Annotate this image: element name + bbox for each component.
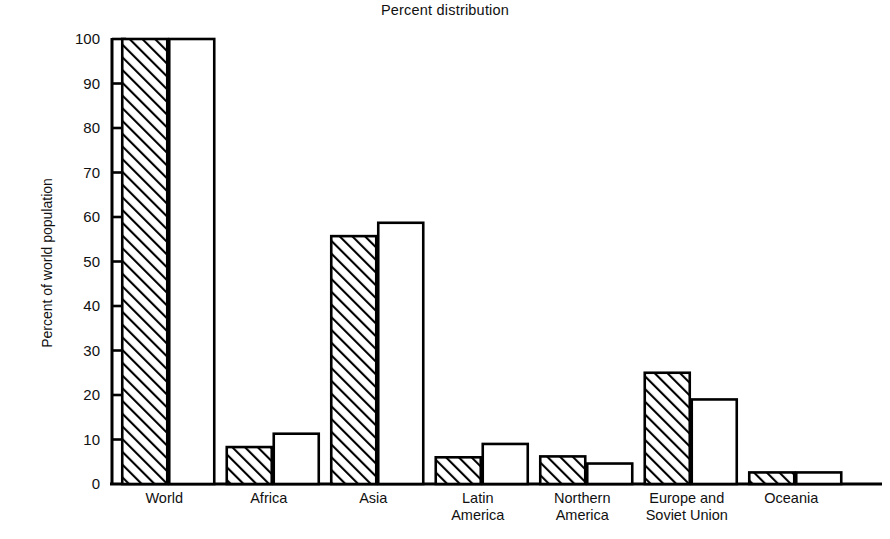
bar-series (122, 39, 841, 484)
bar-open (692, 399, 737, 484)
y-tick-label: 40 (54, 298, 100, 313)
axis-lines (110, 38, 882, 484)
bar-hatched (436, 457, 481, 484)
plot-area (0, 0, 890, 539)
y-tick-label: 100 (54, 31, 100, 46)
x-category-label: Northern America (522, 490, 643, 524)
x-category-label: World (104, 490, 225, 507)
bar-hatched (227, 447, 272, 484)
bar-open (169, 39, 214, 484)
y-tick-label: 10 (54, 432, 100, 447)
y-tick-label: 30 (54, 343, 100, 358)
y-tick-label: 50 (54, 254, 100, 269)
bar-hatched (645, 373, 690, 484)
x-category-label: Europe and Soviet Union (627, 490, 748, 524)
y-tick-label: 60 (54, 209, 100, 224)
bar-hatched (749, 472, 794, 484)
y-tick-label: 90 (54, 76, 100, 91)
chart-container: Percent distribution Percent of world po… (0, 0, 890, 539)
x-category-label: Asia (313, 490, 434, 507)
bar-hatched (540, 456, 585, 484)
bar-open (483, 444, 528, 484)
bar-hatched (331, 236, 376, 484)
bar-open (796, 472, 841, 484)
y-tick-label: 0 (54, 476, 100, 491)
y-tick-label: 70 (54, 165, 100, 180)
bar-open (378, 223, 423, 484)
y-tick-label: 80 (54, 120, 100, 135)
x-category-label: Oceania (731, 490, 852, 507)
x-category-label: Africa (209, 490, 330, 507)
bar-hatched (122, 39, 167, 484)
bar-open (274, 434, 319, 484)
y-tick-label: 20 (54, 387, 100, 402)
x-category-label: Latin America (418, 490, 539, 524)
bar-open (587, 464, 632, 484)
